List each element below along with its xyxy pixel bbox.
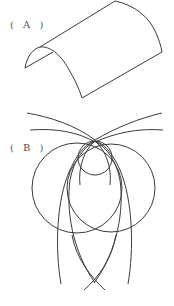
arc-upper-left-1	[27, 113, 95, 140]
bottom-edge	[82, 52, 162, 98]
back-arch	[115, 1, 162, 52]
front-arch-base-edge	[25, 52, 53, 68]
crossing-arc-1	[84, 235, 116, 290]
front-arch-outer	[25, 47, 82, 98]
arc-upper-left-2	[30, 130, 95, 143]
crossing-arc-2	[72, 235, 105, 290]
figure: ( A ) ( B )	[0, 0, 174, 306]
tall-arc-left-outer	[58, 141, 95, 284]
diagram-canvas	[0, 0, 174, 306]
tall-arc-right-outer	[95, 141, 132, 284]
circles-and-arcs	[27, 113, 163, 290]
tall-arc-right-inner	[94, 141, 121, 283]
arc-upper-right-1	[95, 113, 162, 140]
top-ridge-line	[40, 1, 115, 47]
arc-upper-right-2	[95, 130, 163, 142]
half-cylinder-surface	[25, 1, 162, 98]
